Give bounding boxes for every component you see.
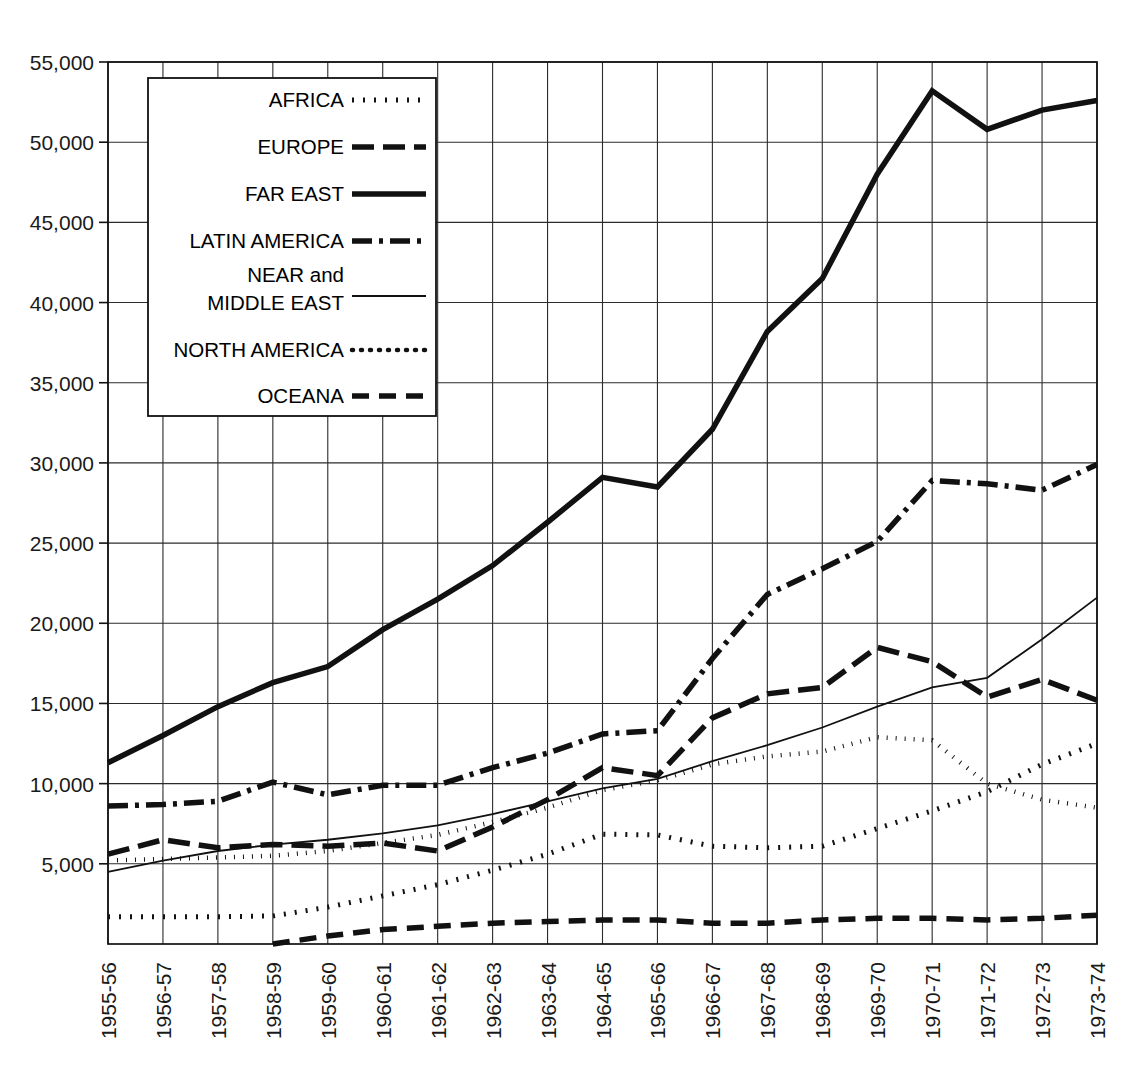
y-axis-tick-label: 25,000 <box>30 532 94 555</box>
x-axis-tick-label: 1962-63 <box>482 962 505 1039</box>
x-axis-tick-label: 1957-58 <box>207 962 230 1039</box>
x-axis-tick-label: 1967-68 <box>756 962 779 1039</box>
x-axis-tick-label: 1960-61 <box>372 962 395 1039</box>
chart-container: 5,00010,00015,00020,00025,00030,00035,00… <box>0 0 1121 1078</box>
series-line-oceana <box>273 915 1097 944</box>
x-axis-tick-label: 1969-70 <box>866 962 889 1039</box>
y-axis-tick-label: 45,000 <box>30 211 94 234</box>
y-axis-tick-label: 5,000 <box>41 853 94 876</box>
y-axis: 5,00010,00015,00020,00025,00030,00035,00… <box>30 51 108 876</box>
legend: AFRICAEUROPEFAR EASTLATIN AMERICANEAR an… <box>148 78 436 416</box>
legend-label: AFRICA <box>269 88 345 111</box>
legend-label: MIDDLE EAST <box>207 291 344 314</box>
x-axis-tick-label: 1963-64 <box>537 962 560 1039</box>
legend-label: OCEANA <box>257 384 344 407</box>
y-axis-tick-label: 35,000 <box>30 372 94 395</box>
x-axis-tick-label: 1968-69 <box>811 962 834 1039</box>
y-axis-tick-label: 20,000 <box>30 612 94 635</box>
x-axis-tick-label: 1966-67 <box>701 962 724 1039</box>
x-axis-tick-label: 1959-60 <box>317 962 340 1039</box>
x-axis-tick-label: 1965-66 <box>646 962 669 1039</box>
y-axis-tick-label: 15,000 <box>30 692 94 715</box>
y-axis-tick-label: 10,000 <box>30 773 94 796</box>
y-axis-tick-label: 40,000 <box>30 292 94 315</box>
x-axis-tick-label: 1955-56 <box>97 962 120 1039</box>
x-axis-tick-label: 1964-65 <box>592 962 615 1039</box>
x-axis-tick-label: 1956-57 <box>152 962 175 1039</box>
legend-label: LATIN AMERICA <box>189 229 344 252</box>
legend-label: NORTH AMERICA <box>174 338 345 361</box>
x-axis-tick-label: 1961-62 <box>427 962 450 1039</box>
x-axis-tick-label: 1970-71 <box>921 962 944 1039</box>
y-axis-tick-label: 55,000 <box>30 51 94 74</box>
y-axis-tick-label: 50,000 <box>30 131 94 154</box>
line-chart: 5,00010,00015,00020,00025,00030,00035,00… <box>0 0 1121 1078</box>
y-axis-tick-label: 30,000 <box>30 452 94 475</box>
legend-label: NEAR and <box>247 263 344 286</box>
x-axis-tick-label: 1958-59 <box>262 962 285 1039</box>
x-axis-tick-label: 1973-74 <box>1086 962 1109 1039</box>
x-axis-tick-label: 1972-73 <box>1031 962 1054 1039</box>
x-axis: 1955-561956-571957-581958-591959-601960-… <box>97 962 1109 1039</box>
x-axis-tick-label: 1971-72 <box>976 962 999 1039</box>
legend-label: EUROPE <box>257 135 344 158</box>
legend-label: FAR EAST <box>245 182 345 205</box>
